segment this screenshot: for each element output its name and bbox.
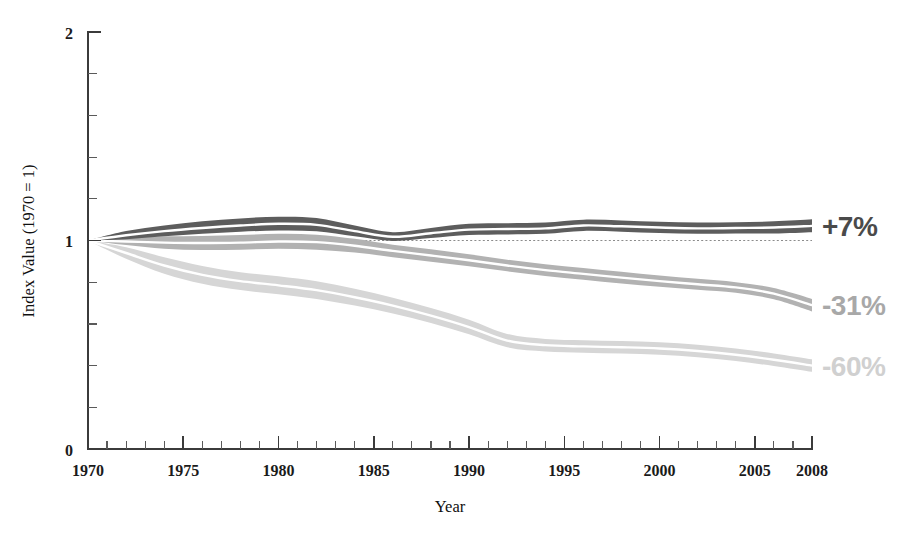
annotation-31: -31%: [822, 290, 886, 321]
x-axis-title: Year: [435, 497, 466, 516]
x-tick-label-2005: 2005: [739, 462, 771, 479]
x-tick-label-2008: 2008: [796, 462, 828, 479]
index-value-area-chart: 2 1 0 1970197519801985199019952000200520…: [0, 0, 911, 541]
series-annotations-group: +7%-31%-60%: [822, 211, 886, 382]
chart-container: 2 1 0 1970197519801985199019952000200520…: [0, 0, 911, 541]
y-tick-label-middle: 1: [65, 233, 73, 250]
x-tick-label-1995: 1995: [548, 462, 580, 479]
y-tick-label-bottom: 0: [65, 442, 73, 459]
x-tick-label-1990: 1990: [453, 462, 485, 479]
x-tick-label-1970: 1970: [72, 462, 104, 479]
x-tick-label-1975: 1975: [167, 462, 199, 479]
x-tick-label-1985: 1985: [358, 462, 390, 479]
annotation-60: -60%: [822, 351, 886, 382]
x-tick-label-1980: 1980: [263, 462, 295, 479]
y-tick-label-top: 2: [65, 25, 73, 42]
y-axis-title: Index Value (1970 = 1): [19, 165, 38, 318]
x-axis-tick-labels: 197019751980198519901995200020052008: [72, 462, 828, 479]
x-tick-label-2000: 2000: [644, 462, 676, 479]
annotation-7: +7%: [822, 211, 878, 242]
